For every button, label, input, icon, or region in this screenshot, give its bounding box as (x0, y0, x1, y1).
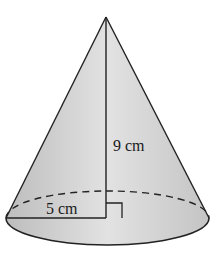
height-label: 9 cm (113, 137, 145, 154)
radius-label: 5 cm (46, 200, 78, 217)
cone-figure: 9 cm 5 cm (0, 0, 222, 261)
cone-lateral-surface (6, 17, 209, 245)
cone-diagram: 9 cm 5 cm (0, 0, 222, 261)
